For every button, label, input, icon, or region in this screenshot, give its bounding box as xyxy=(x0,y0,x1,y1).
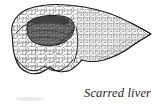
figure-caption: Scarred liver xyxy=(84,84,154,102)
scarred-liver-figure: Scarred liver xyxy=(0,0,156,109)
paper-smudge xyxy=(16,97,44,101)
